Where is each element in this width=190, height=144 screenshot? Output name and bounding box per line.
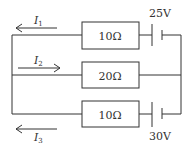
resistor-middle-label: 20Ω xyxy=(98,70,121,83)
battery-bottom-label: 30V xyxy=(149,130,172,143)
resistor-bottom-label: 10Ω xyxy=(98,109,121,122)
current-i1-label: I1 xyxy=(33,14,43,28)
circuit-diagram: 10Ω 20Ω 10Ω 25V 30V I1 I2 I3 xyxy=(0,0,190,144)
current-i3-label: I3 xyxy=(33,131,43,144)
resistor-top-label: 10Ω xyxy=(98,30,121,43)
battery-top-label: 25V xyxy=(149,7,172,20)
current-i2-label: I2 xyxy=(33,54,43,68)
